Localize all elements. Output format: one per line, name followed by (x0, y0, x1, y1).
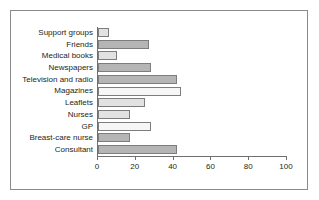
x-tick-label: 80 (244, 162, 253, 171)
x-axis-ticks: 0 20 40 60 80 100 (11, 156, 309, 186)
bar-row: Support groups (11, 27, 309, 39)
bar-television-and-radio (98, 75, 177, 84)
x-tick (173, 156, 174, 160)
bar-row: Newspapers (11, 62, 309, 74)
bar-newspapers (98, 63, 151, 72)
bar-row: Leaflets (11, 97, 309, 109)
category-label: Newspapers (0, 63, 93, 73)
category-label: Leaflets (0, 98, 93, 108)
x-tick-label: 20 (130, 162, 139, 171)
bar-nurses (98, 110, 130, 119)
x-tick (286, 156, 287, 160)
x-tick-label: 0 (95, 162, 99, 171)
x-tick-label: 40 (168, 162, 177, 171)
bar-breast-care-nurse (98, 133, 130, 142)
bar-rows: Support groups Friends Medical books New… (11, 27, 309, 156)
category-label: Television and radio (0, 75, 93, 85)
bar-row: Medical books (11, 50, 309, 62)
category-label: Consultant (0, 145, 93, 155)
bar-row: Television and radio (11, 74, 309, 86)
x-tick (97, 156, 98, 160)
bar-support-groups (98, 28, 109, 37)
category-label: Friends (0, 40, 93, 50)
x-tick-label: 100 (279, 162, 292, 171)
x-tick-label: 60 (206, 162, 215, 171)
bar-magazines (98, 87, 181, 96)
category-label: Breast-care nurse (0, 133, 93, 143)
bar-gp (98, 122, 151, 131)
bar-row: Magazines (11, 86, 309, 98)
bar-row: Consultant (11, 144, 309, 156)
bar-friends (98, 40, 149, 49)
x-tick (248, 156, 249, 160)
x-tick (210, 156, 211, 160)
bar-row: Breast-care nurse (11, 132, 309, 144)
bar-row: Friends (11, 39, 309, 51)
category-label: Magazines (0, 86, 93, 96)
category-label: Support groups (0, 28, 93, 38)
bar-row: GP (11, 121, 309, 133)
plot-area: Support groups Friends Medical books New… (11, 11, 309, 191)
bar-leaflets (98, 98, 145, 107)
bar-row: Nurses (11, 109, 309, 121)
category-label: GP (0, 122, 93, 132)
chart-figure: Support groups Friends Medical books New… (10, 10, 308, 190)
category-label: Medical books (0, 51, 93, 61)
x-tick (135, 156, 136, 160)
bar-medical-books (98, 51, 117, 60)
bar-consultant (98, 145, 177, 154)
category-label: Nurses (0, 110, 93, 120)
